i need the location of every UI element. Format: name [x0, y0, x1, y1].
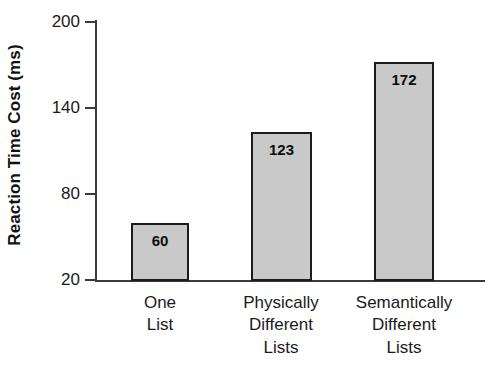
y-tick-label: 20	[34, 271, 80, 288]
plot-area: 2080140200 60123172 OneListPhysicallyDif…	[0, 0, 494, 373]
bar-value-label: 123	[253, 142, 310, 157]
x-category-label-line: Lists	[216, 337, 346, 359]
bar: 60	[131, 223, 189, 281]
x-category-label: OneList	[100, 292, 220, 337]
y-tick-label: 200	[34, 13, 80, 30]
x-category-label: SemanticallyDifferentLists	[334, 292, 474, 359]
y-tick-mark	[85, 21, 96, 23]
x-category-label-line: Semantically	[334, 292, 474, 314]
x-category-label-line: One	[100, 292, 220, 314]
y-tick-mark	[85, 279, 96, 281]
bar-chart: Reaction Time Cost (ms) 2080140200 60123…	[0, 0, 494, 373]
y-tick-label: 140	[34, 99, 80, 116]
y-tick-mark	[85, 107, 96, 109]
x-category-label: PhysicallyDifferentLists	[216, 292, 346, 359]
x-category-label-line: Different	[216, 314, 346, 336]
bar-value-label: 172	[376, 72, 432, 87]
x-category-label-line: Physically	[216, 292, 346, 314]
x-category-label-line: Lists	[334, 337, 474, 359]
x-category-label-line: List	[100, 314, 220, 336]
y-axis-line	[95, 20, 97, 282]
bar: 123	[251, 132, 312, 281]
bar: 172	[374, 62, 434, 281]
bar-value-label: 60	[133, 233, 187, 248]
x-category-label-line: Different	[334, 314, 474, 336]
y-tick-label: 80	[34, 185, 80, 202]
y-tick-mark	[85, 193, 96, 195]
